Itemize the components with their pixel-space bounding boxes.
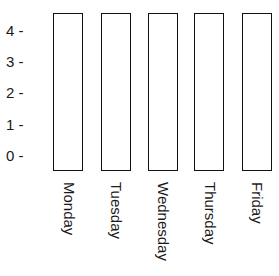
x-label-tuesday: Tuesday: [108, 182, 124, 239]
y-tick-4: 4 -: [6, 23, 24, 39]
y-tick-2: 2 -: [6, 85, 24, 101]
y-tick-1: 1 -: [6, 117, 24, 133]
x-label-monday: Monday: [61, 182, 77, 235]
bar-friday: [242, 13, 272, 171]
bar-tuesday: [101, 13, 131, 171]
bar-monday: [53, 13, 83, 171]
y-tick-0: 0 -: [6, 148, 24, 164]
bar-wednesday: [148, 13, 178, 171]
bar-thursday: [194, 13, 224, 171]
x-label-thursday: Thursday: [202, 182, 218, 245]
x-label-wednesday: Wednesday: [155, 182, 171, 261]
x-label-friday: Friday: [249, 182, 265, 224]
y-tick-3: 3 -: [6, 54, 24, 70]
